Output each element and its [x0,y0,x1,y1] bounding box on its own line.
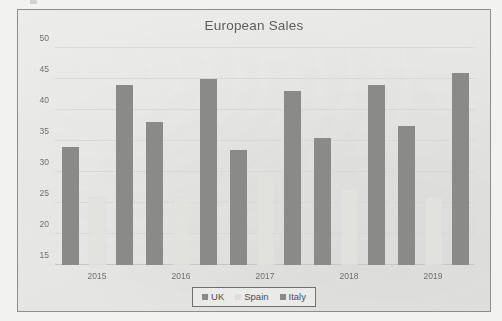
bar-spain-2016 [173,197,190,265]
bar-group-2016 [146,48,217,265]
x-axis-tick-label: 2018 [309,271,389,281]
bar-spain-2017 [257,175,274,265]
chart-container: European Sales 1520253035404550 20152016… [17,9,491,312]
legend-item-italy[interactable]: Italy [280,291,306,302]
x-axis-tick-label: 2016 [141,271,221,281]
legend-swatch-uk-icon [202,294,208,300]
y-axis-tick-label: 25 [40,188,49,198]
bar-group-2017 [230,48,301,265]
bar-italy-2017 [284,91,301,265]
bar-spain-2015 [89,197,106,265]
y-axis-tick-label: 50 [40,33,49,43]
x-axis-tick-label: 2015 [57,271,137,281]
legend-label: Spain [244,291,268,302]
legend-label: Italy [289,291,306,302]
chart-title: European Sales [18,18,490,33]
legend-item-uk[interactable]: UK [202,291,224,302]
legend-item-spain[interactable]: Spain [235,291,268,302]
bar-uk-2018 [314,138,331,265]
y-axis-tick-label: 20 [40,219,49,229]
bar-spain-2018 [341,188,358,266]
bar-uk-2017 [230,150,247,265]
legend-swatch-italy-icon [280,294,286,300]
x-axis-tick-label: 2019 [393,271,473,281]
bar-italy-2016 [200,79,217,265]
bar-uk-2015 [62,147,79,265]
bar-group-2019 [398,48,469,265]
bar-italy-2015 [116,85,133,265]
y-axis-tick-label: 45 [40,64,49,74]
y-axis-tick-label: 30 [40,157,49,167]
bar-uk-2019 [398,126,415,266]
scan-artifact [30,0,37,4]
bar-group-2018 [314,48,385,265]
bar-italy-2019 [452,73,469,265]
y-axis-tick-label: 15 [40,250,49,260]
y-axis-tick-label: 35 [40,126,49,136]
bar-group-2015 [62,48,133,265]
legend-swatch-spain-icon [235,294,241,300]
bar-uk-2016 [146,122,163,265]
legend-label: UK [211,291,224,302]
bar-spain-2019 [425,197,442,265]
chart-legend: UKSpainItaly [192,287,316,307]
plot-area: 1520253035404550 20152016201720182019 [55,48,475,265]
y-axis-tick-label: 40 [40,95,49,105]
x-axis-tick-label: 2017 [225,271,305,281]
bar-italy-2018 [368,85,385,265]
